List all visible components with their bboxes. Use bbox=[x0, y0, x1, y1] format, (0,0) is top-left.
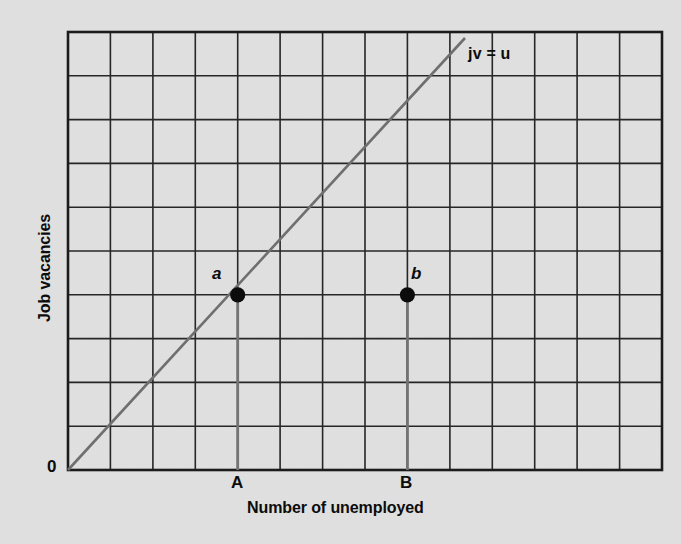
x-axis-title: Number of unemployed bbox=[247, 499, 424, 517]
figure-root: Job vacancies Number of unemployed A B 0… bbox=[0, 0, 681, 544]
origin-label: 0 bbox=[47, 457, 56, 477]
jv-equals-u-line bbox=[68, 38, 465, 470]
data-point-b bbox=[400, 287, 415, 302]
y-axis-title: Job vacancies bbox=[36, 214, 54, 322]
data-point-label-a: a bbox=[212, 264, 221, 284]
x-tick-label-a: A bbox=[231, 473, 243, 493]
data-point-a bbox=[230, 287, 245, 302]
x-tick-label-b: B bbox=[400, 473, 412, 493]
plot-area bbox=[0, 0, 681, 544]
data-point-label-b: b bbox=[411, 264, 421, 284]
line-equation-label: jv = u bbox=[468, 45, 511, 63]
